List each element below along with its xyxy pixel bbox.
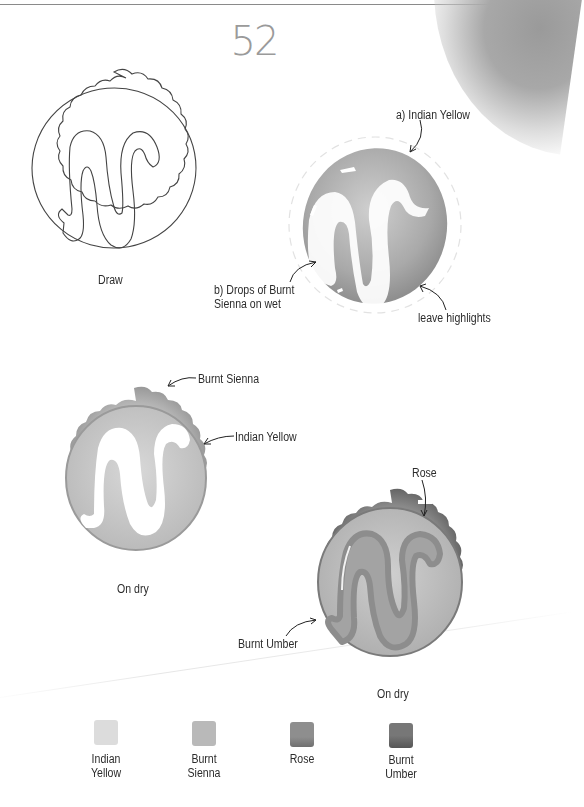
swatch-label-burnt-umber-line2: Umber — [370, 767, 432, 781]
swatch-burnt-umber — [389, 723, 413, 748]
step-3-caption: On dry — [117, 582, 149, 596]
swatch-burnt-sienna — [192, 721, 216, 746]
page-number: 52 — [229, 18, 279, 64]
tart-watercolor-crust — [44, 378, 224, 574]
tart-line-drawing — [14, 68, 214, 268]
annotation-burnt-umber: Burnt Umber — [238, 637, 298, 651]
annotation-leave-highlights: leave highlights — [418, 311, 491, 325]
arrow-rose — [418, 478, 438, 520]
swatch-label-indian-yellow-line2: Yellow — [75, 766, 137, 780]
annotation-burnt-sienna: Burnt Sienna — [198, 372, 259, 386]
tart-inner-circle — [25, 81, 202, 255]
arrow-burnt-umber — [284, 616, 324, 638]
swatch-label-burnt-sienna-line1: Burnt — [173, 752, 235, 766]
arrow-indian-yellow-step2 — [400, 118, 430, 158]
step-4-caption: On dry — [377, 687, 409, 701]
step-1-caption: Draw — [98, 273, 123, 287]
swatch-label-burnt-umber-line1: Burnt — [370, 753, 432, 767]
arrow-leave-highlights — [412, 280, 452, 314]
swatch-label-burnt-sienna-line2: Sienna — [173, 766, 235, 780]
annotation-rose: Rose — [412, 466, 437, 480]
tart-watercolor-final — [298, 480, 480, 678]
arrow-indian-yellow-step3 — [198, 432, 238, 446]
annotation-indian-yellow-step3: Indian Yellow — [235, 430, 297, 444]
page-top-rule — [0, 4, 495, 5]
arrow-burnt-sienna-drops — [286, 256, 326, 286]
annotation-drops-burnt-sienna-line1: b) Drops of Burnt — [214, 283, 294, 297]
annotation-drops-burnt-sienna-line2: Sienna on wet — [214, 297, 281, 311]
swatch-rose — [290, 722, 314, 747]
swatch-indian-yellow — [94, 720, 118, 745]
swatch-label-indian-yellow-line1: Indian — [75, 752, 137, 766]
arrow-burnt-sienna-step3 — [160, 374, 200, 390]
icing-swirl-outline — [58, 131, 159, 248]
swatch-label-rose: Rose — [271, 752, 333, 766]
annotation-indian-yellow: a) Indian Yellow — [396, 108, 470, 122]
